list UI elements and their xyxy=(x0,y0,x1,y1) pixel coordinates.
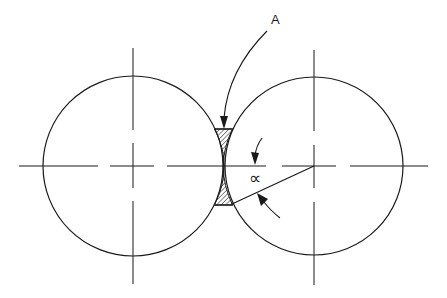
angle-line xyxy=(232,166,314,204)
leader-a-arrow xyxy=(220,31,267,129)
angle-arrow-upper xyxy=(251,138,262,165)
label-a: A xyxy=(271,12,280,27)
diagram-canvas: A ∝ xyxy=(0,0,447,298)
label-alpha: ∝ xyxy=(249,169,261,188)
angle-arrow-lower xyxy=(257,193,280,218)
roll-nip-diagram: A ∝ xyxy=(0,0,447,298)
